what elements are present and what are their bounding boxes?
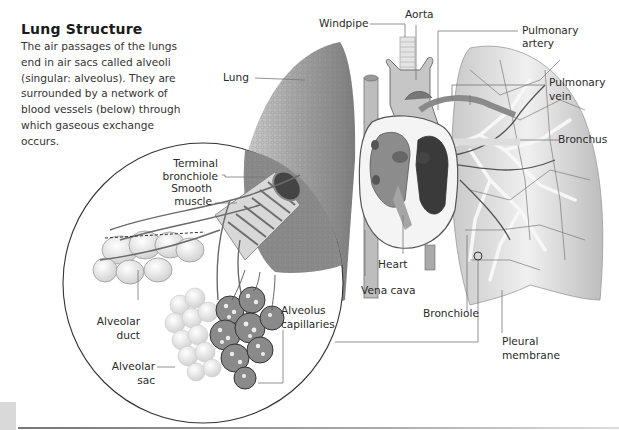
label-pulmonary-artery-line1: Pulmonary (522, 24, 579, 37)
label-alveolar-duct-line2: duct (90, 329, 140, 342)
label-windpipe: Windpipe (319, 17, 369, 30)
label-aorta: Aorta (405, 8, 434, 21)
intro-paragraph: The air passages of the lungs end in air… (21, 39, 181, 150)
label-alveolus-capillaries-line1: Alveolus (281, 304, 326, 317)
label-alveolar-sac-line2: sac (105, 374, 155, 387)
label-pleural-membrane-line1: Pleural (502, 335, 538, 348)
label-smooth-muscle-line2: muscle (158, 195, 212, 208)
label-terminal-bronchiole-line1: Terminal (158, 157, 218, 170)
label-bronchus: Bronchus (558, 133, 607, 146)
label-pulmonary-vein-line1: Pulmonary (549, 76, 606, 89)
heart (359, 116, 457, 248)
label-smooth-muscle-line1: Smooth (158, 182, 212, 195)
page-title: Lung Structure (21, 21, 143, 37)
label-alveolus-capillaries-line2: capillaries (281, 318, 335, 331)
label-pulmonary-artery-line2: artery (522, 37, 554, 50)
label-bronchiole: Bronchiole (423, 307, 479, 320)
label-heart: Heart (378, 258, 408, 271)
label-pleural-membrane-line2: membrane (502, 349, 560, 362)
label-vena-cava: Vena cava (361, 284, 416, 297)
label-alveolar-duct-line1: Alveolar (90, 315, 140, 328)
label-alveolar-sac-line1: Alveolar (105, 360, 155, 373)
label-pulmonary-vein-line2: vein (549, 90, 571, 103)
label-lung: Lung (223, 71, 249, 84)
